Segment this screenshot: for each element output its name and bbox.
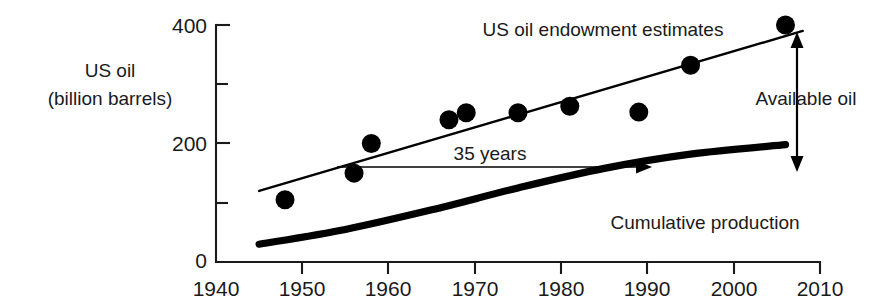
oil-endowment-chart: US oil (billion barrels) 400 200 0 1940 … [0,0,881,303]
x-tick-label-1980: 1980 [538,277,585,300]
y-tick-label-400: 400 [172,14,207,37]
data-point [776,16,795,35]
y-tick-label-0: 0 [195,249,207,272]
y-tick-label-200: 200 [172,132,207,155]
data-point [509,103,528,122]
data-point [362,134,381,153]
available-oil-label: Available oil [755,88,856,109]
y-axis-title-line2: (billion barrels) [48,88,173,109]
x-tick-label-1940: 1940 [193,277,240,300]
data-point [629,103,648,122]
data-point [439,110,458,129]
x-tick-label-1950: 1950 [279,277,326,300]
endowment-series-label: US oil endowment estimates [483,19,724,40]
x-tick-label-1960: 1960 [365,277,412,300]
chart-container: US oil (billion barrels) 400 200 0 1940 … [0,0,881,303]
y-axis-title-line1: US oil [85,60,136,81]
data-point [560,97,579,116]
x-tick-label-2010: 2010 [797,277,844,300]
cumulative-series-label: Cumulative production [610,212,799,233]
x-tick-label-2000: 2000 [711,277,758,300]
x-tick-label-1990: 1990 [624,277,671,300]
x-tick-label-1970: 1970 [452,277,499,300]
data-point [276,190,295,209]
data-point [681,56,700,75]
data-point [457,103,476,122]
years-span-label: 35 years [454,143,527,164]
